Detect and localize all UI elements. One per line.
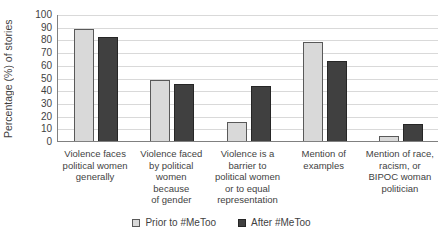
y-tick-label: 40: [20, 86, 52, 96]
y-tick-label: 20: [20, 112, 52, 122]
y-tick-label: 50: [20, 74, 52, 84]
bar-prior-metoo: [227, 122, 247, 141]
legend-item-prior-metoo: Prior to #MeToo: [132, 217, 216, 228]
y-tick-label: 80: [20, 35, 52, 45]
legend-swatch-icon: [132, 219, 140, 227]
x-category-label: Mention of examples: [280, 148, 368, 171]
y-tick-label: 90: [20, 23, 52, 33]
bar-prior-metoo: [379, 136, 399, 141]
legend-swatch-icon: [238, 219, 246, 227]
y-tick-label: 70: [20, 48, 52, 58]
y-tick-label: 10: [20, 124, 52, 134]
bar-after-metoo: [98, 37, 118, 141]
bar-prior-metoo: [303, 42, 323, 141]
y-tick-label: 100: [20, 10, 52, 20]
chart-legend: Prior to #MeTooAfter #MeToo: [0, 217, 443, 228]
y-tick-label: 0: [20, 137, 52, 147]
gridline: [58, 28, 438, 29]
bar-prior-metoo: [74, 29, 94, 141]
x-category-label: Violence faces political women generally: [51, 148, 139, 183]
bar-after-metoo: [174, 84, 194, 141]
bar-after-metoo: [403, 124, 423, 141]
x-category-label: Violence faced by political women becaus…: [127, 148, 215, 206]
legend-label: Prior to #MeToo: [145, 217, 216, 228]
y-axis-title: Percentage (%) of stories: [2, 12, 17, 146]
y-tick-label: 30: [20, 99, 52, 109]
plot-area: [57, 15, 438, 142]
bar-chart-figure: Percentage (%) of stories 01020304050607…: [0, 0, 443, 238]
legend-label: After #MeToo: [251, 217, 310, 228]
x-category-label: Violence is a barrier to political women…: [204, 148, 292, 206]
bar-prior-metoo: [150, 80, 170, 141]
bar-after-metoo: [251, 86, 271, 141]
legend-item-after-metoo: After #MeToo: [238, 217, 310, 228]
y-tick-label: 60: [20, 61, 52, 71]
bar-after-metoo: [327, 61, 347, 141]
x-category-label: Mention of race, racism, or BIPOC woman …: [356, 148, 443, 194]
gridline: [58, 15, 438, 16]
